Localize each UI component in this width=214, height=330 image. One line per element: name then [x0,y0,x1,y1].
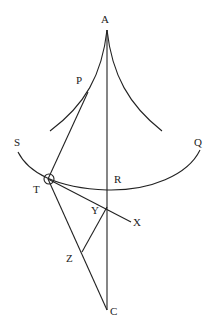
label-P: P [76,74,82,86]
geometry-diagram: A P S Q T R Y X Z C [0,0,214,330]
line-TX [48,179,131,222]
arc-STRQ [18,150,200,190]
right-cusp-curve [107,30,162,131]
label-X: X [133,216,141,228]
label-C: C [110,305,117,317]
label-Z: Z [66,252,73,264]
label-Q: Q [194,136,202,148]
diagram-canvas: A P S Q T R Y X Z C [0,0,214,330]
label-T: T [33,183,40,195]
label-S: S [14,136,20,148]
label-R: R [114,173,122,185]
label-A: A [101,13,109,25]
line-TP [48,92,88,179]
line-TC [48,179,107,310]
label-Y: Y [91,204,99,216]
